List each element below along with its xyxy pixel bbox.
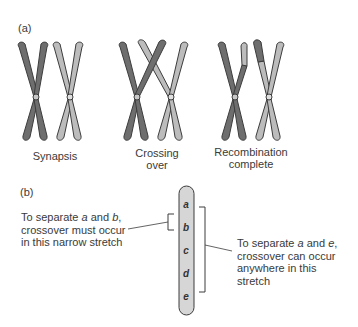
large-bracket (199, 207, 205, 292)
right-leader-line (205, 245, 232, 251)
gene-label-e: e (178, 291, 194, 302)
small-bracket (168, 214, 174, 230)
panel-b-label: (b) (20, 186, 33, 198)
stage-label-crossing-over: Crossing over (122, 147, 192, 171)
left-leader-line (128, 222, 168, 229)
recombined-dark-chromosome (218, 42, 247, 140)
recombined-light-chromosome (254, 40, 284, 140)
gene-label-b: b (178, 222, 194, 233)
left-annotation: To separate a and b, crossover must occu… (21, 211, 126, 249)
panel-a-label: (a) (18, 22, 31, 34)
stage-label-recombination-complete: Recombination complete (208, 146, 294, 170)
synapsis-light-chromosome (53, 42, 83, 140)
gene-label-a: a (178, 199, 194, 210)
stage-label-synapsis: Synapsis (20, 150, 90, 162)
gene-label-c: c (178, 245, 194, 256)
gene-label-d: d (178, 268, 194, 279)
right-annotation: To separate a and e, crossover can occur… (237, 237, 337, 287)
crossing-dark-chromosome (119, 40, 166, 140)
synapsis-dark-chromosome (18, 42, 48, 140)
